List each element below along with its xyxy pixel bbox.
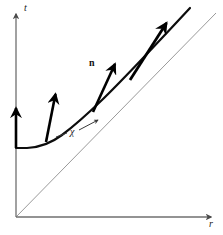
spacetime-figure: t r n χ [0,0,223,235]
normal-vector-label: n [89,58,95,68]
normal-vector-3 [93,64,115,112]
figure-canvas [0,0,223,235]
chi-annotation-arrow [79,120,98,130]
chi-label: χ [70,127,74,137]
normal-vector-4 [130,23,167,80]
radial-axis-label: r [209,219,213,229]
light-cone-line [16,13,216,217]
normal-vector-2 [46,94,56,142]
time-axis-label: t [24,3,27,13]
